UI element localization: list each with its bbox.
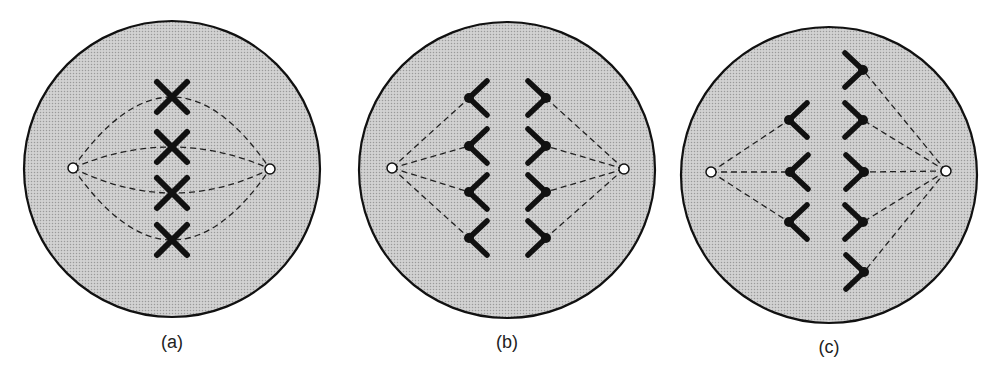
panel-c xyxy=(681,27,977,323)
panel-label-a: (a) xyxy=(161,332,183,353)
centriole-pole-icon xyxy=(941,166,951,176)
panel-a xyxy=(24,21,320,317)
panel-b xyxy=(359,22,655,318)
centriole-pole-icon xyxy=(619,164,629,174)
figure-canvas xyxy=(0,0,1004,377)
centriole-pole-icon xyxy=(387,163,397,173)
mitosis-figure: (a) (b) (c) xyxy=(0,0,1004,377)
cell-outline xyxy=(359,22,655,318)
centriole-pole-icon xyxy=(265,164,275,174)
centriole-pole-icon xyxy=(706,167,716,177)
cell-outline xyxy=(681,27,977,323)
panel-label-b: (b) xyxy=(496,332,518,353)
panel-label-c: (c) xyxy=(819,337,840,358)
centriole-pole-icon xyxy=(68,163,78,173)
